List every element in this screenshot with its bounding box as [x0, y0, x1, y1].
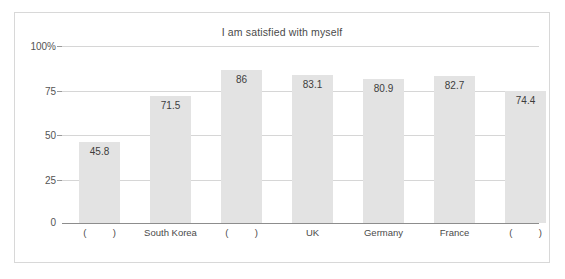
bar-0[interactable]: 45.8 ( ): [79, 142, 120, 224]
ytick-mark-75: [57, 91, 62, 92]
bar-value-6: 74.4: [505, 95, 546, 106]
plot-area: 100% 75 50 25 0 45.8 ( ) 71.5 South Kore…: [62, 46, 539, 224]
bar-value-0: 45.8: [79, 146, 120, 157]
bar-6[interactable]: 74.4 ( ): [505, 91, 546, 223]
ytick-label-25: 25: [45, 174, 56, 185]
ytick-label-0: 0: [50, 216, 56, 227]
ytick-label-100: 100%: [30, 41, 56, 52]
bar-4[interactable]: 80.9 Germany: [363, 79, 404, 223]
category-label-2: ( ): [225, 227, 258, 238]
bar-value-2: 86: [221, 74, 262, 85]
ytick-label-75: 75: [45, 85, 56, 96]
bar-2[interactable]: 86 ( ): [221, 70, 262, 223]
chart-title: I am satisfied with myself: [15, 26, 549, 38]
chart-frame: I am satisfied with myself 100% 75 50 25…: [14, 12, 550, 263]
bar-1[interactable]: 71.5 South Korea: [150, 96, 191, 223]
category-label-4: Germany: [364, 227, 403, 238]
category-label-0: ( ): [83, 227, 116, 238]
category-label-5: France: [440, 227, 470, 238]
ytick-label-50: 50: [45, 130, 56, 141]
ytick-mark-50: [57, 135, 62, 136]
bar-value-4: 80.9: [363, 83, 404, 94]
gridline-100: 100%: [62, 46, 539, 47]
ytick-mark-100: [57, 46, 62, 47]
category-label-6: ( ): [509, 227, 542, 238]
bar-value-1: 71.5: [150, 100, 191, 111]
bar-5[interactable]: 82.7 France: [434, 76, 475, 223]
bar-3[interactable]: 83.1 UK: [292, 75, 333, 223]
bar-value-3: 83.1: [292, 79, 333, 90]
category-label-3: UK: [306, 227, 319, 238]
ytick-mark-25: [57, 180, 62, 181]
category-label-1: South Korea: [144, 227, 197, 238]
bar-value-5: 82.7: [434, 80, 475, 91]
